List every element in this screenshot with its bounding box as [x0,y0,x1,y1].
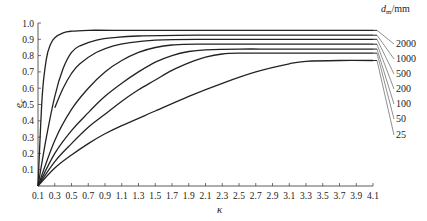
y-tick-label: 0.7 [22,67,34,77]
x-axis-label: κ [217,203,223,215]
axes: 0.10.30.50.70.91.11.31.51.71.92.12.32.52… [22,19,379,202]
x-tick-label: 3.1 [283,191,295,201]
x-tick-label: 1.3 [133,191,145,201]
leader-line [377,35,394,59]
x-tick-label: 1.5 [149,191,161,201]
y-tick-label: 0.6 [22,84,34,94]
legend-label-50: 50 [396,113,406,124]
legend-label-500: 500 [396,68,411,79]
legend-label-25: 25 [396,129,406,140]
x-tick-label: 2.3 [216,191,228,201]
x-tick-label: 3.5 [317,191,329,201]
y-tick-label: 0.1 [22,165,34,175]
y-tick-label: 0.3 [22,133,34,143]
x-tick-label: 3.7 [334,191,346,201]
leader-line [377,53,394,119]
x-tick-label: 2.1 [200,191,212,201]
x-tick-label: 0.7 [82,191,94,201]
x-tick-label: 1.1 [116,191,128,201]
leader-line [377,60,394,135]
x-tick-label: 0.1 [32,191,44,201]
legend-label-2000: 2000 [396,38,416,49]
leader-line [377,44,394,89]
x-tick-label: 2.5 [233,191,245,201]
x-tick-label: 2.7 [250,191,262,201]
curve-dm-50 [38,53,373,186]
x-tick-label: 0.9 [99,191,111,201]
curve-dm-100 [38,49,373,186]
legend-label-1000: 1000 [396,53,416,64]
x-tick-label: 3.9 [350,191,362,201]
x-tick-label: 3.3 [300,191,312,201]
legend-label-200: 200 [396,83,411,94]
y-tick-label: 0.9 [22,35,34,45]
y-tick-label: 1.0 [22,19,34,29]
curves [38,30,373,186]
x-tick-label: 0.3 [49,191,61,201]
legend-leaders: 200010005002001005025 [373,30,416,140]
curve-dm-25 [38,60,373,186]
curve-dm-200 [38,44,373,186]
legend-label-100: 100 [396,98,411,109]
x-tick-label: 0.5 [66,191,78,201]
leader-line [377,30,394,44]
x-tick-label: 4.1 [367,191,379,201]
x-tick-label: 1.7 [166,191,178,201]
x-tick-label: 1.9 [183,191,195,201]
x-tick-label: 2.9 [267,191,279,201]
legend-title: dm/mm [381,3,410,16]
y-tick-label: 0.4 [22,116,34,126]
y-tick-label: 0.8 [22,51,34,61]
chart: 0.10.30.50.70.91.11.31.51.71.92.12.32.52… [0,0,427,221]
y-tick-label: 0.2 [22,149,34,159]
